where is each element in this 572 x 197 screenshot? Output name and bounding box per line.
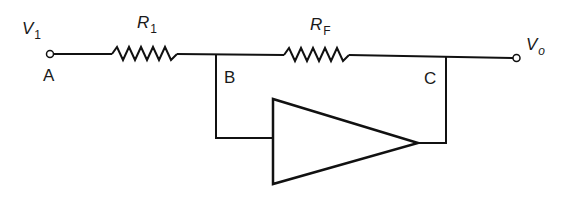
label-r1-symbol: R: [137, 13, 149, 32]
label-v1-subscript: 1: [34, 28, 41, 42]
label-v1-symbol: V: [22, 19, 33, 38]
label-rf-symbol: R: [310, 15, 322, 34]
output-terminal: [513, 55, 520, 62]
resistor-rf-icon: [284, 48, 349, 61]
label-node-a: A: [43, 67, 54, 84]
amplifier-triangle-icon: [273, 99, 418, 184]
label-node-c: C: [424, 70, 436, 87]
wire-rf-vo: [349, 55, 513, 58]
input-terminal: [47, 51, 54, 58]
label-r1: R1: [137, 14, 157, 31]
label-r1-subscript: 1: [150, 22, 157, 36]
resistor-r1-icon: [112, 47, 177, 60]
circuit-diagram: [0, 0, 572, 197]
wire-r1-rf: [177, 54, 284, 55]
label-v1: V1: [22, 20, 41, 37]
label-vo: Vo: [526, 36, 545, 53]
label-node-b: B: [224, 69, 235, 86]
label-rf: RF: [310, 16, 331, 33]
label-vo-subscript: o: [538, 44, 545, 58]
label-rf-subscript: F: [323, 24, 330, 38]
label-vo-symbol: V: [526, 35, 537, 54]
